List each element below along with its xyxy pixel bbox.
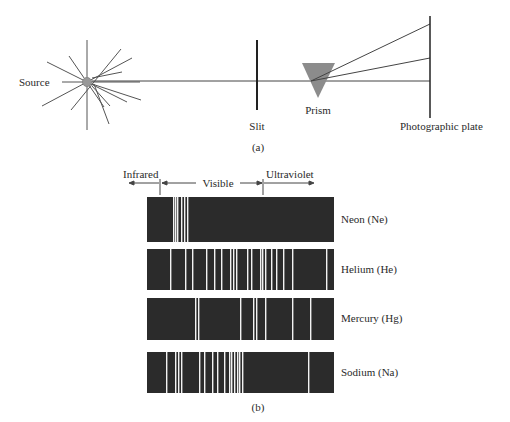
emission-line xyxy=(265,298,266,340)
emission-line xyxy=(240,298,241,340)
emission-line xyxy=(185,249,186,290)
emission-line xyxy=(195,298,196,340)
emission-line xyxy=(230,249,231,290)
spectrum-band-helium xyxy=(147,249,334,290)
emission-line xyxy=(236,249,237,290)
emission-line xyxy=(192,249,193,290)
spectrum-label-sodium: Sodium (Na) xyxy=(341,366,398,379)
visible-label: Visible xyxy=(202,177,233,189)
spectroscope-figure: Source Slit Prism Photographic plate (a)… xyxy=(0,0,510,422)
spectrum-band-neon xyxy=(147,197,334,242)
emission-line xyxy=(310,298,311,340)
emission-line xyxy=(170,249,171,290)
emission-line xyxy=(326,249,327,290)
emission-line xyxy=(276,249,277,290)
emission-line xyxy=(166,352,167,393)
caption-a: (a) xyxy=(252,141,265,154)
emission-line xyxy=(204,352,205,393)
emission-line xyxy=(221,249,222,290)
emission-line xyxy=(199,352,200,393)
emission-line xyxy=(229,352,230,393)
emission-line xyxy=(184,197,185,242)
emission-line xyxy=(233,249,234,290)
emission-line xyxy=(231,352,232,393)
emission-line xyxy=(175,352,176,393)
emission-line xyxy=(206,249,207,290)
emission-line xyxy=(175,197,176,242)
emission-line xyxy=(262,249,263,290)
emission-line xyxy=(214,249,215,290)
light-source-icon xyxy=(42,40,141,130)
emission-line xyxy=(253,298,254,340)
emission-line xyxy=(251,249,252,290)
emission-line xyxy=(181,352,182,393)
emission-line xyxy=(212,352,213,393)
slit-label: Slit xyxy=(249,120,264,132)
spectrum-label-neon: Neon (Ne) xyxy=(341,213,388,226)
emission-line xyxy=(198,298,199,340)
emission-line xyxy=(177,197,178,242)
emission-line xyxy=(265,249,266,290)
emission-line xyxy=(178,352,179,393)
emission-line xyxy=(271,249,272,290)
emission-line xyxy=(292,298,293,340)
spectrum-label-mercury: Mercury (Hg) xyxy=(341,312,403,325)
ultraviolet-label: Ultraviolet xyxy=(266,168,314,180)
spectrum-band-mercury xyxy=(147,298,334,340)
spectra-group xyxy=(147,197,334,393)
infrared-label: Infrared xyxy=(123,168,159,180)
emission-line xyxy=(247,249,248,290)
emission-line xyxy=(237,352,238,393)
emission-line xyxy=(239,352,240,393)
emission-line xyxy=(181,197,182,242)
emission-line xyxy=(234,352,235,393)
emission-line xyxy=(173,197,174,242)
emission-line xyxy=(283,249,284,290)
emission-line xyxy=(256,298,257,340)
spectrum-band-sodium xyxy=(147,352,334,393)
emission-line xyxy=(242,352,243,393)
dispersed-rays xyxy=(311,24,430,81)
emission-line xyxy=(308,352,309,393)
emission-line xyxy=(224,352,225,393)
plate-label: Photographic plate xyxy=(400,120,483,132)
source-label: Source xyxy=(19,76,50,88)
caption-b: (b) xyxy=(252,401,265,414)
prism-label: Prism xyxy=(305,104,331,116)
emission-line xyxy=(292,249,293,290)
emission-line xyxy=(187,197,188,242)
spectrum-label-helium: Helium (He) xyxy=(341,263,397,276)
emission-line xyxy=(260,249,261,290)
emission-line xyxy=(217,352,218,393)
